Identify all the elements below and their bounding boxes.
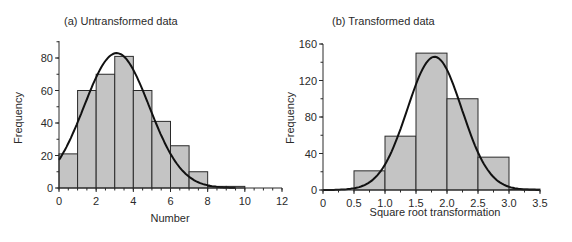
x-tick-label: 4 (130, 195, 136, 207)
y-tick-label: 80 (305, 111, 317, 123)
x-tick-label: 2 (93, 195, 99, 207)
figure: (a) Untransformed data 02468101202040608… (0, 0, 572, 242)
y-tick-label: 0 (311, 184, 317, 196)
y-tick-label: 60 (41, 85, 53, 97)
y-tick-label: 40 (41, 117, 53, 129)
x-tick-label: 0 (56, 195, 62, 207)
y-tick-label: 120 (299, 75, 317, 87)
x-axis-label: Number (150, 212, 189, 224)
x-tick-label: 12 (276, 195, 288, 207)
x-tick-label: 8 (205, 195, 211, 207)
histogram-bar (59, 154, 78, 188)
y-tick-label: 80 (41, 52, 53, 64)
x-tick-label: 6 (167, 195, 173, 207)
x-tick-label: 0.5 (346, 197, 361, 209)
x-tick-label: 3.0 (501, 197, 516, 209)
y-tick-label: 160 (299, 38, 317, 50)
y-axis-label: Frequency (12, 92, 24, 144)
histogram-bar (78, 91, 97, 189)
chart-title: (b) Transformed data (332, 15, 436, 27)
x-tick-label: 3.5 (532, 197, 547, 209)
x-tick-label: 10 (239, 195, 251, 207)
chart-untransformed: (a) Untransformed data 02468101202040608… (12, 15, 288, 224)
histogram-bar (152, 121, 171, 188)
histogram-bar (115, 56, 134, 188)
y-tick-label: 0 (47, 182, 53, 194)
y-axis-label: Frequency (284, 92, 296, 144)
histogram-bar (96, 74, 115, 188)
x-axis-label: Square root transformation (370, 206, 501, 218)
histogram-bar (385, 136, 416, 190)
y-tick-label: 40 (305, 148, 317, 160)
y-tick-label: 20 (41, 150, 53, 162)
chart-title: (a) Untransformed data (64, 15, 179, 27)
x-tick-label: 0 (320, 197, 326, 209)
chart-transformed: (b) Transformed data 00.51.01.52.02.53.0… (284, 15, 548, 218)
